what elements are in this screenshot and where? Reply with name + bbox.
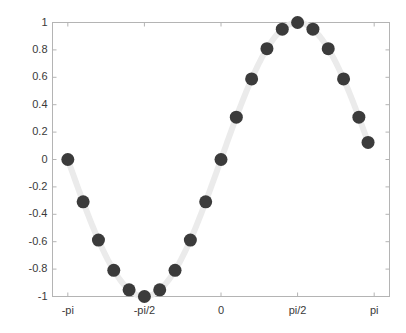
- y-tick-label: 0: [10, 154, 48, 165]
- data-point-marker: [184, 234, 197, 247]
- data-point-marker: [337, 72, 350, 85]
- data-point-marker: [92, 234, 105, 247]
- data-point-marker: [138, 290, 151, 303]
- y-tick-label: 1: [10, 17, 48, 28]
- data-point-marker: [306, 23, 319, 36]
- data-point-marker: [230, 111, 243, 124]
- x-tick-label: pi/2: [268, 305, 328, 316]
- data-point-marker: [169, 264, 182, 277]
- y-tick-label: 0.6: [10, 71, 48, 82]
- data-point-marker: [215, 153, 228, 166]
- x-tick-label: 0: [191, 305, 251, 316]
- data-point-marker: [352, 111, 365, 124]
- data-point-marker: [61, 153, 74, 166]
- data-point-marker: [362, 136, 375, 149]
- data-point-marker: [276, 23, 289, 36]
- y-tick-label: -0.8: [10, 263, 48, 274]
- y-tick-label: 0.4: [10, 99, 48, 110]
- x-tick-label: -pi: [38, 305, 98, 316]
- data-point-marker: [123, 283, 136, 296]
- figure-canvas: 10.80.60.40.20-0.2-0.4-0.6-0.8-1 -pi-pi/…: [0, 0, 406, 333]
- y-tick-label: 0.8: [10, 44, 48, 55]
- data-point-marker: [77, 195, 90, 208]
- y-tick-label: -0.2: [10, 181, 48, 192]
- y-tick-label: -0.4: [10, 208, 48, 219]
- plot-svg: [0, 0, 406, 333]
- data-point-marker: [199, 195, 212, 208]
- data-point-marker: [153, 283, 166, 296]
- x-tick-label: pi: [344, 305, 404, 316]
- data-point-marker: [107, 264, 120, 277]
- data-point-marker: [260, 42, 273, 55]
- y-tick-label: -0.6: [10, 236, 48, 247]
- data-point-marker: [291, 16, 304, 29]
- y-tick-label: -1: [10, 291, 48, 302]
- x-tick-label: -pi/2: [114, 305, 174, 316]
- data-point-marker: [245, 72, 258, 85]
- data-point-marker: [322, 42, 335, 55]
- y-tick-label: 0.2: [10, 126, 48, 137]
